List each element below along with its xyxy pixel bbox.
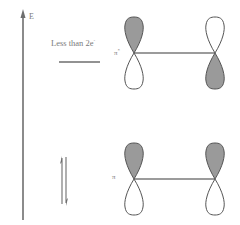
energy-axis <box>21 9 26 220</box>
pi-star-orbital <box>125 17 224 89</box>
pi-orbital <box>125 143 224 215</box>
p-lobe-empty-icon <box>125 179 143 215</box>
p-lobe-shaded-icon <box>125 143 143 179</box>
axis-arrowhead-icon <box>21 9 26 18</box>
pi-star-label: π* <box>114 48 120 57</box>
pi-label: π <box>112 174 116 181</box>
p-lobe-empty-icon <box>206 17 224 53</box>
mo-diagram-canvas <box>0 0 240 225</box>
annotation-text: Less than 2e <box>51 38 94 48</box>
p-lobe-empty-icon <box>125 53 143 89</box>
pi-star-label-star: * <box>118 48 121 53</box>
energy-axis-label: E <box>29 13 34 21</box>
electron-count-annotation: Less than 2e- <box>51 38 95 47</box>
annotation-superscript: - <box>94 38 96 43</box>
p-lobe-shaded-icon <box>206 143 224 179</box>
p-lobe-shaded-icon <box>206 53 224 89</box>
p-lobe-shaded-icon <box>125 17 143 53</box>
p-lobe-empty-icon <box>206 179 224 215</box>
electron-pair-icon <box>60 156 68 206</box>
